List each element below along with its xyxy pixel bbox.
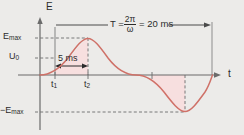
x-axis-arrowhead — [214, 72, 221, 77]
x-tick-t1-sub: 1 — [54, 82, 58, 89]
y-tick-emax-sub: max — [9, 34, 21, 41]
period-fraction-denominator: ω — [124, 25, 137, 34]
period-measure-arrowhead — [204, 22, 211, 27]
y-axis-label: E — [46, 2, 53, 12]
interval-annotation-label: 5 ms — [58, 54, 78, 63]
period-equation: T =2πω = 20 ms — [110, 15, 173, 34]
period-value: 20 ms — [147, 18, 173, 29]
period-fraction-numerator: 2π — [124, 15, 137, 24]
period-symbol: T — [110, 18, 116, 29]
x-tick-label-t1: t1 — [51, 80, 57, 90]
y-tick-label-emax: Emax — [3, 32, 21, 42]
x-tick-t2-sub: 2 — [87, 82, 91, 89]
y-axis-arrowhead — [37, 17, 42, 24]
negative-shaded-band — [136, 75, 185, 112]
y-tick-label-u0: U0 — [9, 52, 19, 62]
y-tick-label-neg-emax: −Emax — [0, 106, 24, 116]
period-equals-2: = — [139, 18, 145, 29]
x-tick-label-t2: t2 — [84, 80, 90, 90]
period-fraction: 2πω — [124, 15, 137, 34]
y-tick-u0-sub: 0 — [16, 54, 20, 61]
x-axis-label: t — [228, 69, 231, 79]
y-tick-neg-emax-sub: max — [11, 108, 23, 115]
figure-canvas: E t Emax U0 −Emax t1 t2 5 ms T =2πω = 20… — [0, 0, 244, 135]
